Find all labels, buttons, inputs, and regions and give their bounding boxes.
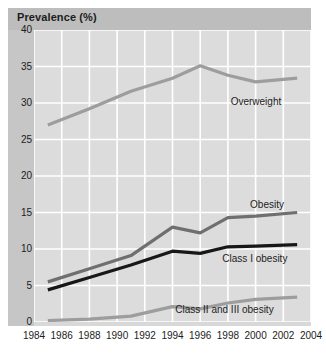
series-label: Class I obesity <box>222 253 287 264</box>
y-axis-tick-label: 25 <box>8 134 32 145</box>
x-axis-tick-label: 1988 <box>78 330 100 341</box>
x-axis-tick-label: 1990 <box>106 330 128 341</box>
y-axis-tick-label: 30 <box>8 97 32 108</box>
series-canvas <box>34 30 311 322</box>
y-axis-tick-label: 10 <box>8 243 32 254</box>
gridlines <box>34 30 311 322</box>
chart-figure: Prevalence (%) 0510152025303540 19841986… <box>0 0 326 359</box>
y-axis-tick-label: 15 <box>8 207 32 218</box>
x-axis-labels: 1984198619881990199219941996199820002002… <box>0 330 326 348</box>
x-axis-tick-label: 2004 <box>300 330 322 341</box>
y-axis-tick-label: 5 <box>8 280 32 291</box>
x-axis-tick-label: 1994 <box>161 330 183 341</box>
x-axis-tick-label: 1984 <box>23 330 45 341</box>
x-axis-tick-label: 1998 <box>217 330 239 341</box>
x-axis-tick-label: 1986 <box>51 330 73 341</box>
y-axis-tick-label: 20 <box>8 170 32 181</box>
x-axis-tick-label: 2000 <box>244 330 266 341</box>
x-axis-tick-label: 1992 <box>134 330 156 341</box>
plot-area <box>34 30 311 322</box>
y-axis-tick-label: 35 <box>8 61 32 72</box>
series-label: Obesity <box>250 199 284 210</box>
series-label: Overweight <box>231 96 282 107</box>
x-axis-tick-label: 2002 <box>272 330 294 341</box>
y-axis-tick-label: 40 <box>8 24 32 35</box>
x-axis-tick-label: 1996 <box>189 330 211 341</box>
y-axis-tick-label: 0 <box>8 316 32 327</box>
chart-title: Prevalence (%) <box>17 11 97 23</box>
series-label: Class II and III obesity <box>175 304 273 315</box>
